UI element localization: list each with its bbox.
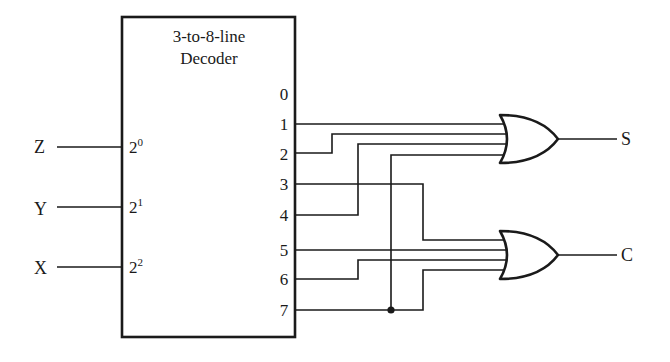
output-pin-2: 2 xyxy=(280,145,289,164)
wire-out7-to-c xyxy=(295,270,508,310)
wire-out7-to-s xyxy=(391,155,508,310)
output-pin-4: 4 xyxy=(280,206,289,225)
junction-dot xyxy=(387,306,394,313)
decoder-circuit-diagram: 3-to-8-line Decoder Z 20 Y 21 X 22 0 1 2… xyxy=(0,0,670,362)
decoder-title-line2: Decoder xyxy=(180,49,238,68)
input-label-z: Z xyxy=(34,137,45,157)
input-label-y: Y xyxy=(34,199,47,219)
output-pin-7: 7 xyxy=(280,301,289,320)
output-pin-6: 6 xyxy=(280,270,289,289)
decoder-title-line1: 3-to-8-line xyxy=(173,27,246,46)
output-label-s: S xyxy=(621,129,631,149)
output-label-c: C xyxy=(621,245,633,265)
output-pin-1: 1 xyxy=(280,115,289,134)
output-pin-3: 3 xyxy=(280,175,289,194)
or-gate-c xyxy=(500,231,558,279)
input-label-x: X xyxy=(34,258,47,278)
output-pin-0: 0 xyxy=(280,85,289,104)
output-pin-5: 5 xyxy=(280,241,289,260)
wire-out3-to-c xyxy=(295,184,508,240)
or-gate-s xyxy=(500,115,558,163)
